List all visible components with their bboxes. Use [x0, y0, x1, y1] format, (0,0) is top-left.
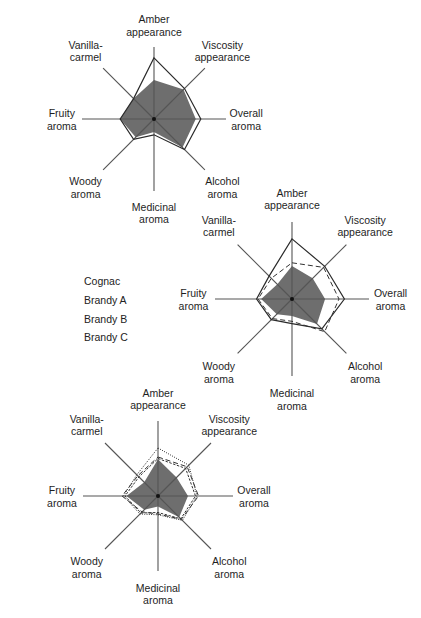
- axis-label: Fruity aroma: [47, 107, 77, 132]
- filled-area: [127, 459, 189, 517]
- axis-label: Overall aroma: [230, 107, 263, 132]
- axis-label: Amber appearance: [264, 186, 319, 211]
- center-point: [152, 117, 156, 121]
- legend: Cognac Brandy A Brandy B Brandy C: [18, 272, 128, 347]
- legend-label: Brandy C: [84, 331, 128, 343]
- axis-label: Viscosity appearance: [195, 38, 250, 63]
- axis-label: Woody aroma: [203, 360, 236, 385]
- radar-chart-3: [83, 421, 233, 571]
- axis-label: Fruity aroma: [179, 287, 209, 312]
- axis-label: Alcohol aroma: [348, 360, 382, 385]
- figure: Cognac Brandy A Brandy B Brandy C Amber …: [0, 0, 421, 618]
- legend-label: Brandy B: [84, 313, 127, 325]
- legend-item-cognac: Cognac: [18, 272, 128, 291]
- axis-label: Medicinal aroma: [136, 581, 180, 606]
- axis-label: Medicinal aroma: [132, 200, 176, 225]
- axis-label: Woody aroma: [69, 175, 102, 200]
- axis-label: Viscosity appearance: [337, 213, 392, 238]
- axis-line: [105, 443, 158, 496]
- center-point: [290, 297, 294, 301]
- axis-label: Fruity aroma: [47, 484, 77, 509]
- legend-label: Brandy A: [84, 294, 127, 306]
- axis-label: Vanilla- carmel: [68, 38, 102, 63]
- axis-label: Vanilla- carmel: [70, 412, 104, 437]
- legend-item-brandy-b: Brandy B: [18, 309, 128, 328]
- legend-label: Cognac: [84, 275, 120, 287]
- axis-label: Vanilla- carmel: [202, 213, 236, 238]
- axis-label: Viscosity appearance: [202, 412, 257, 437]
- axis-label: Amber appearance: [130, 386, 185, 411]
- axis-line: [238, 299, 292, 353]
- axis-label: Overall aroma: [374, 287, 407, 312]
- radar-chart-2: [215, 222, 369, 376]
- axis-label: Alcohol aroma: [212, 555, 246, 580]
- axis-label: Amber appearance: [126, 13, 181, 38]
- axis-label: Overall aroma: [237, 484, 270, 509]
- legend-item-brandy-a: Brandy A: [18, 291, 128, 310]
- radar-chart-1: [82, 47, 226, 191]
- filled-area: [261, 266, 325, 324]
- axis-label: Alcohol aroma: [205, 175, 239, 200]
- center-point: [156, 494, 160, 498]
- axis-label: Woody aroma: [71, 555, 104, 580]
- axis-label: Medicinal aroma: [270, 387, 314, 412]
- legend-item-brandy-c: Brandy C: [18, 328, 128, 347]
